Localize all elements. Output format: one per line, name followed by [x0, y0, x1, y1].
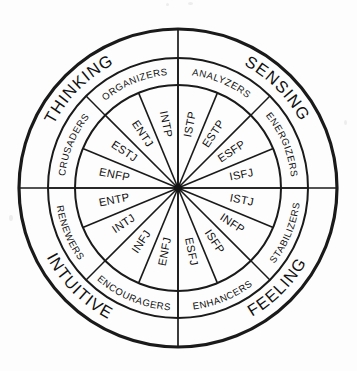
type-label-estj: ESTJ: [109, 138, 139, 164]
hub-dot: [174, 184, 182, 192]
group-label-organizers: ORGANIZERS: [100, 66, 169, 103]
type-label-istj: ISTJ: [229, 191, 255, 207]
type-label-infj: INFJ: [129, 228, 153, 255]
type-label-esfj: ESFJ: [183, 236, 200, 266]
group-divider: [86, 96, 105, 115]
group-divider: [251, 96, 270, 115]
type-label-entp: ENTP: [98, 191, 131, 209]
wheel-canvas: THINKINGSENSINGFEELINGINTUITIVE ANALYZER…: [0, 0, 357, 371]
type-label-estp: ESTP: [200, 117, 227, 149]
type-label-enfp: ENFP: [98, 165, 131, 183]
group-divider: [251, 261, 270, 280]
type-label-intp: INTP: [158, 110, 175, 139]
type-label-enfj: ENFJ: [156, 236, 173, 267]
group-label-enhancers: ENHANCERS: [192, 278, 254, 312]
group-label-stabilizers: STABILIZERS: [267, 201, 302, 265]
type-label-isfj: ISFJ: [228, 166, 254, 182]
type-label-isfp: ISFP: [203, 227, 227, 255]
type-label-istp: ISTP: [181, 110, 198, 138]
group-label-energizers: ENERGIZERS: [264, 110, 300, 178]
center-hub: [174, 184, 182, 192]
personality-wheel-diagram: THINKINGSENSINGFEELINGINTUITIVE ANALYZER…: [0, 0, 357, 371]
